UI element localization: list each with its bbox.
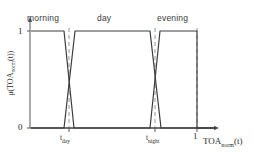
region-label-morning: morning: [27, 13, 59, 23]
x-tick-label-tday: tday: [60, 133, 70, 144]
y-axis-title-prefix: μ(TOA: [6, 73, 15, 96]
x-tick-label-one: 1: [193, 131, 198, 141]
x-tick-label-tday-sub: day: [62, 138, 70, 144]
chart-canvas: [0, 0, 253, 158]
region-label-day: day: [97, 13, 111, 23]
fuzzy-membership-chart: morning day evening 1 0 tday tnight 1 TO…: [0, 0, 253, 158]
curve-morning: [31, 31, 216, 128]
region-label-evening: evening: [157, 13, 188, 23]
x-axis-title-suffix: (t): [234, 136, 243, 146]
x-axis-title-prefix: TOA: [203, 136, 221, 146]
y-axis-title: μ(TOAnorm(t)): [6, 40, 17, 106]
y-tick-label-1: 1: [18, 26, 23, 36]
x-axis-title: TOAnorm(t): [203, 136, 243, 148]
y-axis-title-sub: norm: [10, 61, 16, 73]
x-tick-label-tnight-sub: night: [148, 138, 159, 144]
curve-day: [31, 31, 216, 128]
x-tick-label-tnight: tnight: [146, 133, 159, 144]
y-tick-label-0: 0: [18, 122, 23, 132]
y-axis-title-suffix: (t)): [6, 51, 15, 61]
x-axis-title-sub: norm: [221, 142, 234, 148]
curve-evening: [31, 31, 216, 128]
